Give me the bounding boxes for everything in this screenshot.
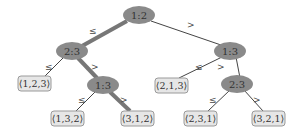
node-label: 2:3 <box>64 46 80 57</box>
leaf-1-2-3: ⟨1,2,3⟩ <box>18 76 51 91</box>
edge-label-le: ≤ <box>209 95 217 105</box>
edge-label-gt: > <box>187 20 195 30</box>
edge-label-le: ≤ <box>78 95 86 105</box>
leaf-3-1-2: ⟨3,1,2⟩ <box>121 111 154 126</box>
comparison-node-1-3-left: 1:3 <box>87 76 119 94</box>
comparison-node-root: 1:2 <box>123 6 155 24</box>
leaf-label: ⟨1,3,2⟩ <box>52 113 84 124</box>
node-label: 1:2 <box>131 10 147 21</box>
node-label: 2:3 <box>229 79 245 90</box>
comparison-node-1-3-right: 1:3 <box>214 42 246 60</box>
leaf-label: ⟨2,1,3⟩ <box>156 80 188 91</box>
comparison-node-2-3-left: 2:3 <box>56 42 88 60</box>
leaf-2-3-1: ⟨2,3,1⟩ <box>184 111 217 126</box>
edge-label-gt: > <box>253 95 261 105</box>
edge-label-gt: > <box>217 62 225 72</box>
edge-label-le: ≤ <box>45 62 53 72</box>
edge-label-le: ≤ <box>195 62 203 72</box>
edge-root-to-1-3 <box>151 21 221 45</box>
edge-label-gt: > <box>91 62 99 72</box>
leaf-label: ⟨2,3,1⟩ <box>185 113 217 124</box>
leaf-label: ⟨3,1,2⟩ <box>122 113 154 124</box>
leaf-3-2-1: ⟨3,2,1⟩ <box>252 111 285 126</box>
edge-label-le: ≤ <box>89 26 97 36</box>
edges <box>44 21 263 112</box>
decision-tree-diagram: ≤ > ≤ > ≤ > ≤ > ≤ > 1:2 2:3 1:3 1:3 2:3 … <box>0 0 299 136</box>
comparison-node-2-3-right: 2:3 <box>221 75 253 93</box>
edge-1-3-to-2-3 <box>236 57 240 78</box>
leaf-label: ⟨1,2,3⟩ <box>19 78 51 89</box>
edge-label-gt: > <box>120 95 128 105</box>
node-label: 1:3 <box>222 46 238 57</box>
node-label: 1:3 <box>95 80 111 91</box>
leaf-label: ⟨3,2,1⟩ <box>253 113 285 124</box>
leaf-2-1-3: ⟨2,1,3⟩ <box>155 78 188 93</box>
leaf-1-3-2: ⟨1,3,2⟩ <box>51 111 84 126</box>
